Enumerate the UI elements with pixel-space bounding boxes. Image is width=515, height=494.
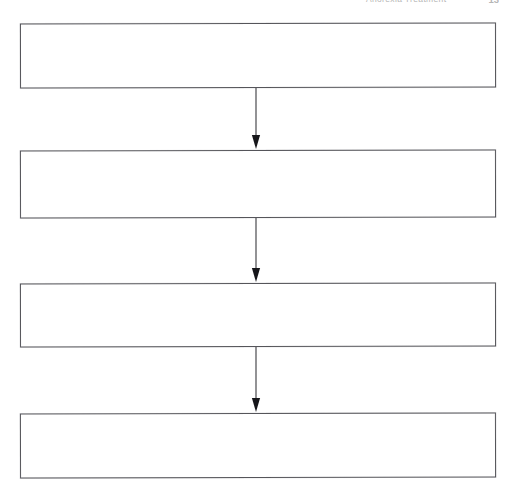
- flowchart-node: [20, 150, 496, 219]
- flowchart-connector: [249, 88, 263, 150]
- flowchart: [0, 0, 515, 494]
- flowchart-node: [20, 283, 496, 348]
- arrow-down-icon: [249, 218, 263, 283]
- scanned-page: Anorexia Treatment 13: [0, 0, 515, 494]
- arrow-down-icon: [249, 347, 263, 413]
- flowchart-connector: [249, 347, 263, 413]
- arrow-down-icon: [249, 88, 263, 150]
- flowchart-connector: [249, 218, 263, 283]
- flowchart-node: [20, 412, 496, 478]
- flowchart-node: [20, 23, 496, 89]
